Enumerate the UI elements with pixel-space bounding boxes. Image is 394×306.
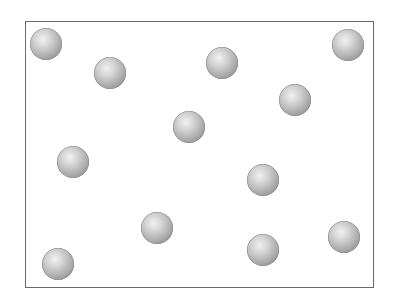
gas-particle-sphere-icon	[247, 234, 279, 266]
gas-particle-sphere-icon	[141, 212, 173, 244]
gas-particle-sphere-icon	[94, 57, 126, 89]
gas-particle-sphere-icon	[279, 84, 311, 116]
gas-particle-sphere-icon	[57, 146, 89, 178]
gas-particle-sphere-icon	[30, 28, 62, 60]
gas-particle-sphere-icon	[332, 29, 364, 61]
gas-particle-sphere-icon	[247, 164, 279, 196]
gas-particle-sphere-icon	[42, 248, 74, 280]
gas-particle-sphere-icon	[206, 47, 238, 79]
gas-particle-sphere-icon	[173, 111, 205, 143]
gas-particle-sphere-icon	[328, 221, 360, 253]
